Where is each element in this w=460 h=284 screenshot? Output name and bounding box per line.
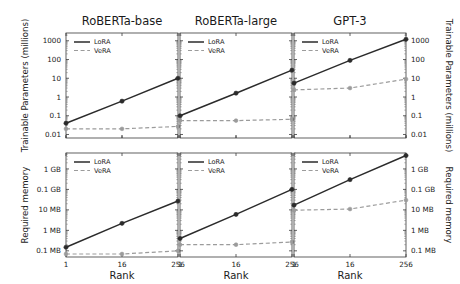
y-tick-label-right: 10 [411, 74, 421, 83]
column-title-1: RoBERTa-large [195, 14, 277, 28]
y-tick-label: 10 [52, 74, 62, 83]
multi-panel-line-chart: 0.010.11101001000LoRAVeRARoBERTa-baseLoR… [0, 0, 460, 284]
figure-root: 0.010.11101001000LoRAVeRARoBERTa-baseLoR… [0, 0, 460, 284]
y-tick-label: 100 [47, 55, 61, 64]
legend-label-vera: VeRA [208, 167, 225, 175]
legend-label-lora: LoRA [208, 158, 225, 166]
data-point-vera [120, 252, 124, 256]
panel-top-middle [178, 33, 294, 138]
data-point-lora [348, 58, 352, 62]
data-point-vera [348, 86, 352, 90]
panel-top-right [292, 33, 408, 138]
data-point-lora [348, 178, 352, 182]
y-tick-label-right: 0.1 MB [411, 246, 436, 255]
data-point-vera [348, 207, 352, 211]
x-axis-label-0: Rank [110, 270, 135, 281]
y-axis-label-right-row0: Trainable Parameters (millions) [444, 18, 454, 152]
data-point-lora [234, 212, 238, 216]
y-tick-label-right: 10 MB [411, 205, 434, 214]
data-point-vera [120, 127, 124, 131]
legend-label-lora: LoRA [94, 38, 111, 46]
y-tick-label: 1 GB [44, 165, 61, 174]
column-title-2: GPT-3 [333, 14, 366, 28]
data-point-lora [178, 236, 182, 240]
y-tick-label: 0.1 [50, 111, 61, 120]
x-tick-label: 1 [178, 260, 183, 269]
y-tick-label-right: 0.1 [411, 111, 422, 120]
legend-label-vera: VeRA [322, 167, 339, 175]
y-tick-label: 1 MB [43, 226, 61, 235]
y-tick-label-right: 0.1 GB [411, 185, 435, 194]
panel-frame [294, 153, 406, 257]
data-point-lora [176, 76, 180, 80]
data-point-lora [290, 187, 294, 191]
y-tick-label-right: 100 [411, 55, 425, 64]
data-point-vera [404, 77, 408, 81]
data-point-lora [178, 114, 182, 118]
y-axis-label-right-row1: Required memory [444, 167, 454, 244]
legend-label-lora: LoRA [322, 158, 339, 166]
data-point-vera [290, 117, 294, 121]
panel-bottom-middle [178, 153, 294, 257]
data-point-lora [290, 68, 294, 72]
x-tick-label: 1 [292, 260, 297, 269]
y-tick-label-right: 1 [411, 93, 416, 102]
data-point-vera [234, 119, 238, 123]
data-point-lora [292, 81, 296, 85]
x-axis-label-1: Rank [224, 270, 249, 281]
legend-label-vera: VeRA [322, 47, 339, 55]
x-tick-label: 16 [231, 260, 241, 269]
data-point-lora [120, 99, 124, 103]
x-tick-label: 1 [64, 260, 69, 269]
y-axis-label-row1: Required memory [20, 167, 30, 244]
panel-frame [294, 33, 406, 138]
y-tick-label: 1 [56, 93, 61, 102]
y-axis-label-row0: Trainable Parameters (millions) [20, 19, 30, 153]
legend-label-lora: LoRA [94, 158, 111, 166]
data-point-lora [292, 203, 296, 207]
legend-label-vera: VeRA [94, 47, 111, 55]
x-axis-label-2: Rank [338, 270, 363, 281]
y-tick-label: 0.1 GB [37, 185, 61, 194]
y-tick-label-right: 1000 [411, 36, 430, 45]
y-tick-label: 10 MB [38, 205, 61, 214]
data-point-vera [404, 198, 408, 202]
data-point-lora [64, 245, 68, 249]
x-tick-label: 16 [117, 260, 127, 269]
panel-bottom-left [64, 153, 180, 257]
y-tick-label: 0.01 [45, 130, 61, 139]
data-point-lora [176, 199, 180, 203]
data-point-vera [178, 243, 182, 247]
data-point-vera [64, 127, 68, 131]
data-point-vera [178, 119, 182, 123]
legend-label-vera: VeRA [208, 47, 225, 55]
data-point-lora [404, 37, 408, 41]
legend-label-lora: LoRA [208, 38, 225, 46]
y-tick-label: 1000 [43, 36, 62, 45]
y-tick-label-right: 1 GB [411, 165, 428, 174]
x-tick-label: 256 [399, 260, 413, 269]
data-point-vera [64, 252, 68, 256]
y-tick-label: 0.1 MB [36, 246, 61, 255]
panel-bottom-right [292, 153, 408, 257]
data-point-lora [404, 153, 408, 157]
panel-top-left [64, 33, 180, 138]
data-point-vera [176, 249, 180, 253]
data-point-vera [292, 88, 296, 92]
legend-label-lora: LoRA [322, 38, 339, 46]
data-point-vera [176, 125, 180, 129]
data-point-lora [120, 221, 124, 225]
panel-frame [66, 153, 178, 257]
data-point-lora [64, 121, 68, 125]
x-tick-label: 16 [345, 260, 355, 269]
panel-frame [180, 153, 292, 257]
column-title-0: RoBERTa-base [82, 14, 163, 28]
legend-label-vera: VeRA [94, 167, 111, 175]
y-tick-label-right: 1 MB [411, 226, 429, 235]
y-tick-label-right: 0.01 [411, 130, 427, 139]
data-point-lora [234, 91, 238, 95]
data-point-vera [234, 243, 238, 247]
data-point-vera [292, 208, 296, 212]
data-point-vera [290, 240, 294, 244]
